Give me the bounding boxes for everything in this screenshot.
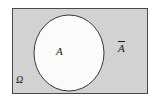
complement-letter: A (118, 43, 125, 54)
set-a-circle (34, 15, 104, 91)
venn-diagram-graphic (0, 0, 162, 105)
set-a-label: A (56, 46, 63, 57)
universal-set-label: Ω (16, 75, 23, 85)
set-a-complement-label: A (118, 41, 125, 54)
venn-diagram-figure: A A Ω (0, 0, 162, 105)
